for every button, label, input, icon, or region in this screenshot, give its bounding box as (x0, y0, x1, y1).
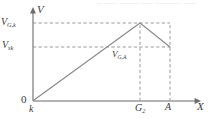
origin-label: 0 (21, 93, 27, 105)
x-tick-label-k: k (29, 103, 33, 114)
y-tick-vsk-subscript: sk (8, 44, 13, 51)
x-tick-g2-subscript: 2 (142, 107, 145, 114)
y-tick-label-vsk: Vsk (2, 39, 13, 51)
x-tick-label-g2: G2 (135, 102, 145, 114)
axis-label-x: X (197, 100, 204, 112)
x-axis (33, 98, 201, 104)
axis-label-v: V (37, 3, 44, 15)
y-tick-label-vgk: VG,k (1, 16, 16, 28)
chart-screenshot: — —— ——— —— ———— —— V X VG,k Vsk VG,A 0 … (0, 0, 211, 119)
series-v-profile (34, 23, 170, 100)
x-tick-label-a: A (165, 101, 171, 112)
annotation-vga-subscript: G,A (118, 54, 127, 60)
y-tick-vgk-subscript: G,k (7, 21, 16, 28)
y-axis (30, 7, 36, 101)
annotation-label-vga: VG,A (112, 49, 126, 60)
plot-canvas (0, 0, 211, 119)
